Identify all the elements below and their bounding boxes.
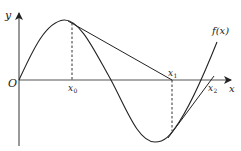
svg-text:1: 1 xyxy=(174,72,178,79)
svg-text:0: 0 xyxy=(74,87,78,94)
diagram-canvas: y O x f(x) x 0 x 1 x 2 xyxy=(0,0,241,151)
svg-text:x: x xyxy=(68,83,73,93)
tangent-line-1 xyxy=(68,21,172,80)
x0-label: x 0 xyxy=(68,83,78,94)
function-tangent-diagram: y O x f(x) x 0 x 1 x 2 xyxy=(0,0,241,151)
fx-label: f(x) xyxy=(211,25,229,36)
function-curve xyxy=(19,20,217,142)
x2-label: x 2 xyxy=(208,83,218,94)
svg-text:x: x xyxy=(168,68,173,78)
y-axis-label: y xyxy=(4,9,12,22)
x-axis-label: x xyxy=(229,83,235,94)
svg-text:2: 2 xyxy=(214,87,218,94)
x1-label: x 1 xyxy=(168,68,177,79)
svg-text:x: x xyxy=(208,83,213,93)
origin-label: O xyxy=(8,77,17,90)
